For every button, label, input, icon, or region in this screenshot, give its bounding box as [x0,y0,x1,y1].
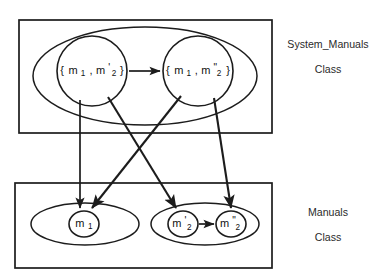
top-right-sub1: 1 [187,69,192,78]
m2dprime-base: m [220,217,229,229]
arrow-top-right-to-m2doubleprime [214,98,231,208]
element-m1-label: m 1 [75,217,93,231]
top-left-sub1: 1 [81,69,86,78]
m1-sub: 1 [88,222,93,231]
element-m2doubleprime-label: m " 2 [220,213,240,231]
top-right-separator: , [195,64,198,76]
top-right-base1: m [174,64,183,76]
top-right-open-brace: { [166,64,170,76]
top-left-sub2: 2 [112,69,117,78]
top-left-base1: m [69,64,78,76]
top-left-base2: m [96,64,105,76]
m2prime-sub: 2 [187,223,192,232]
system-manuals-class-label-line1: System_Manuals [287,38,368,50]
top-left-open-brace: { [60,64,64,76]
system-manuals-class-label-line2: Class [315,63,342,75]
top-right-base2: m [201,64,210,76]
top-right-close-brace: } [226,64,230,76]
class-instance-mapping-diagram: { m 1 , m ' 2 } { m 1 , m " 2 } m 1 m [0,0,385,280]
manuals-class-box [15,183,272,268]
element-m2prime-label: m ' 2 [172,213,192,231]
diagram-canvas: { m 1 , m ' 2 } { m 1 , m " 2 } m 1 m [0,0,385,280]
top-right-set-label: { m 1 , m " 2 } [166,60,230,79]
m1-base: m [75,217,84,229]
m2dprime-sub: 2 [235,223,240,232]
manuals-class-label-line2: Class [315,231,342,243]
top-right-sub2: 2 [217,69,222,78]
arrow-top-right-to-m1 [92,96,181,208]
top-left-separator: , [89,64,92,76]
m2prime-base: m [172,217,181,229]
top-left-close-brace: } [120,64,124,76]
manuals-class-label-line1: Manuals [308,206,348,218]
top-left-prime2: ' [108,61,110,72]
top-left-set-label: { m 1 , m ' 2 } [60,60,124,79]
